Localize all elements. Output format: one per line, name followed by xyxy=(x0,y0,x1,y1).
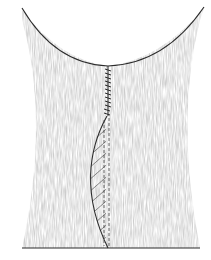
surgical-illustration xyxy=(0,0,211,260)
pencil-shading xyxy=(22,8,204,248)
